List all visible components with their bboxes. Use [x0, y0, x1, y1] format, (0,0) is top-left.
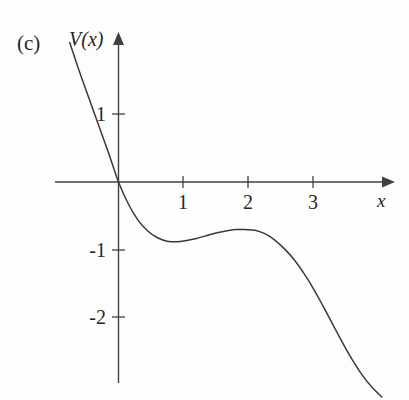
- plot-canvas: [0, 0, 409, 400]
- figure-panel: (c) V(x) x 1 2 3 1 -1 -2: [0, 0, 409, 400]
- x-tick-label-1: 1: [170, 192, 196, 212]
- x-tick-label-3: 3: [300, 192, 326, 212]
- y-axis-arrow-icon: [113, 32, 124, 45]
- y-tick-label-1: 1: [66, 104, 106, 124]
- y-tick-label-neg2: -2: [66, 307, 106, 327]
- curve-v-of-x: [70, 43, 382, 397]
- panel-label: (c): [17, 33, 40, 54]
- x-tick-label-2: 2: [235, 192, 261, 212]
- x-axis-title: x: [377, 191, 385, 210]
- y-tick-label-neg1: -1: [66, 240, 106, 260]
- y-axis-title: V(x): [69, 29, 103, 49]
- x-axis-arrow-icon: [382, 177, 395, 188]
